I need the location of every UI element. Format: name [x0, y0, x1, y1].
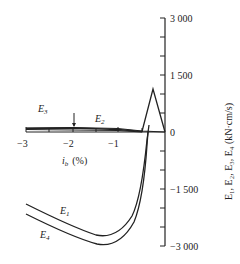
y-tick-m3000: −3 000: [170, 241, 198, 252]
y-axis-label: E₁, E₂, E₃, E₄ (kN·cm/s): [223, 103, 235, 200]
y-tick-3000: 3 000: [170, 13, 193, 24]
x-tick-m2: −2: [63, 138, 74, 149]
x-axis-label: ib(%): [62, 155, 87, 168]
y-tick-m1500: −1 500: [170, 184, 198, 195]
e3-pointer-arrow: [72, 123, 76, 127]
y-tick-0: 0: [170, 127, 175, 138]
y-tick-1500: 1 500: [170, 70, 193, 81]
label-e4: E4: [39, 229, 50, 242]
label-e1: E1: [59, 205, 70, 218]
series-e1: [26, 125, 149, 236]
x-tick-m3: −3: [17, 138, 28, 149]
label-e2: E2: [94, 113, 105, 126]
x-tick-m1: −1: [108, 138, 119, 149]
chart: 3 000 1 500 0 −1 500 −3 000 −3 −2 −1 ib(…: [0, 0, 240, 264]
label-e3: E3: [37, 103, 48, 116]
series-e4: [26, 132, 148, 245]
